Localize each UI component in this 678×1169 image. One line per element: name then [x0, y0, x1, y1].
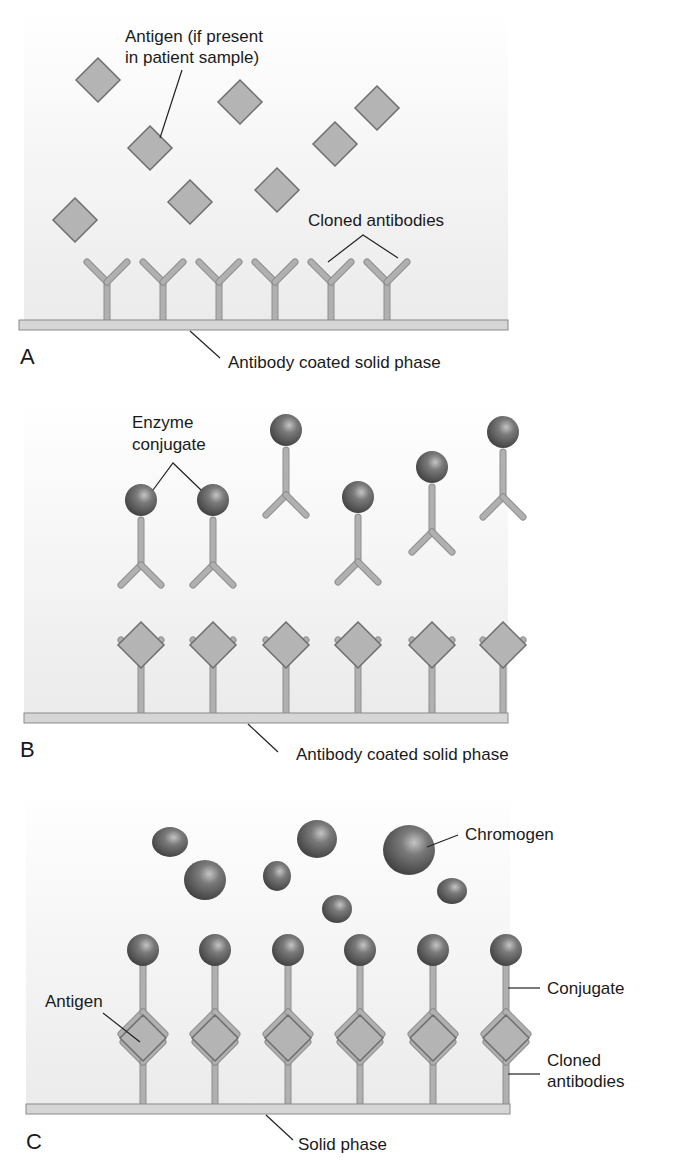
diagram-canvas: Antigen (if present in patient sample) C… — [0, 0, 678, 1169]
enzyme-sphere-icon — [270, 414, 302, 446]
enzyme-sphere-icon — [342, 481, 374, 513]
solid-phase-label-c: Solid phase — [298, 1135, 387, 1154]
solid-phase-bar-a — [19, 320, 508, 330]
conjugate-sphere-icon — [199, 934, 231, 966]
chromogen-sphere-icon — [297, 820, 337, 858]
chromogen-sphere-icon — [383, 825, 435, 875]
chromogen-label: Chromogen — [465, 825, 554, 844]
solid-phase-bar-c — [26, 1104, 510, 1114]
solid-phase-label-b: Antibody coated solid phase — [296, 745, 509, 764]
conjugate-sphere-icon — [272, 934, 304, 966]
antigen-label-line2: in patient sample) — [125, 48, 259, 67]
cloned-antibodies-label-c-line2: antibodies — [547, 1072, 625, 1091]
panel-letter-a: A — [20, 344, 35, 369]
conjugate-label: Conjugate — [547, 979, 625, 998]
elisa-diagram: Antigen (if present in patient sample) C… — [0, 0, 678, 1169]
panel-letter-c: C — [26, 1129, 42, 1154]
enzyme-sphere-icon — [197, 484, 229, 516]
panel-letter-b: B — [20, 737, 35, 762]
chromogen-sphere-icon — [322, 895, 352, 923]
conjugate-sphere-icon — [344, 934, 376, 966]
conjugate-sphere-icon — [417, 934, 449, 966]
antigen-label-c: Antigen — [45, 992, 103, 1011]
cloned-antibodies-label-c-line1: Cloned — [547, 1051, 601, 1070]
conjugate-sphere-icon — [490, 934, 522, 966]
chromogen-sphere-icon — [437, 878, 467, 904]
enzyme-sphere-icon — [487, 416, 519, 448]
solid-phase-leader-b — [248, 724, 278, 752]
solid-phase-bar-b — [24, 713, 508, 723]
enzyme-sphere-icon — [416, 451, 448, 483]
solid-phase-leader-c — [266, 1115, 293, 1140]
chromogen-sphere-icon — [184, 860, 226, 900]
enzyme-sphere-icon — [125, 484, 157, 516]
chromogen-sphere-icon — [263, 861, 291, 891]
solid-phase-leader-a — [190, 331, 220, 358]
enzyme-conjugate-label-line1: Enzyme — [132, 413, 193, 432]
chromogen-sphere-icon — [152, 827, 188, 857]
antigen-label-line1: Antigen (if present — [125, 27, 263, 46]
cloned-antibodies-label-a: Cloned antibodies — [308, 211, 444, 230]
conjugate-sphere-icon — [127, 934, 159, 966]
enzyme-conjugate-label-line2: conjugate — [132, 435, 206, 454]
solid-phase-label-a: Antibody coated solid phase — [228, 353, 441, 372]
